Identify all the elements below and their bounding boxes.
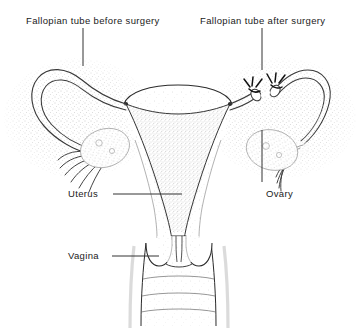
label-fallopian-tube-before: Fallopian tube before surgery: [26, 16, 160, 26]
label-vagina: Vagina: [68, 251, 99, 261]
label-fallopian-tube-after: Fallopian tube after surgery: [200, 16, 325, 26]
label-ovary: Ovary: [266, 189, 293, 199]
uterus-body: [124, 85, 232, 240]
cervix-and-vagina: [130, 236, 228, 328]
label-uterus: Uterus: [68, 189, 98, 199]
diagram-canvas: [0, 0, 357, 333]
anatomical-diagram: Fallopian tube before surgery Fallopian …: [0, 0, 357, 333]
